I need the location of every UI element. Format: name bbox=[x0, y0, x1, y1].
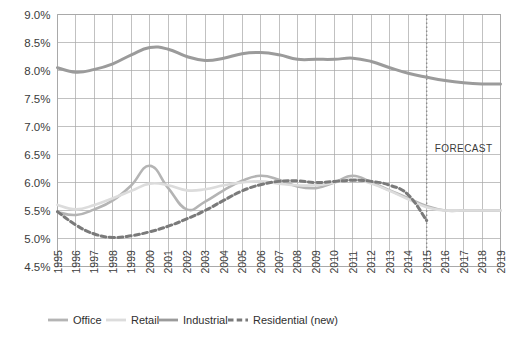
x-axis-tick-label: 2001 bbox=[162, 250, 174, 274]
x-axis-tick-label: 1999 bbox=[125, 250, 137, 274]
x-axis-tick-label: 1995 bbox=[52, 250, 64, 274]
legend-label-industrial[interactable]: Industrial bbox=[183, 314, 228, 326]
x-axis-tick-label: 2003 bbox=[199, 250, 211, 274]
x-axis-tick-label: 2012 bbox=[365, 250, 377, 274]
y-axis-tick-label: 7.0% bbox=[24, 121, 50, 133]
legend-label-retail[interactable]: Retail bbox=[131, 314, 159, 326]
y-axis-tick-label: 6.5% bbox=[24, 149, 50, 161]
grid-lines bbox=[58, 15, 501, 267]
x-axis-tick-label: 2004 bbox=[218, 250, 230, 274]
y-axis-tick-label: 8.0% bbox=[24, 65, 50, 77]
x-axis-labels: 1995199619971998199920002001200220032004… bbox=[52, 250, 507, 274]
forecast-annotation: FORECAST bbox=[435, 143, 493, 154]
chart-legend: OfficeRetailIndustrialResidential (new) bbox=[48, 314, 338, 326]
x-axis-tick-label: 2002 bbox=[181, 250, 193, 274]
x-axis-tick-label: 2011 bbox=[347, 251, 359, 274]
x-axis-tick-label: 2014 bbox=[402, 250, 414, 274]
x-axis-tick-label: 2018 bbox=[476, 250, 488, 274]
x-axis-tick-label: 2006 bbox=[255, 250, 267, 274]
legend-label-residential-new[interactable]: Residential (new) bbox=[253, 314, 338, 326]
x-axis-tick-label: 2007 bbox=[273, 250, 285, 274]
x-axis-tick-label: 1997 bbox=[88, 250, 100, 274]
x-axis-tick-label: 2015 bbox=[421, 250, 433, 274]
x-axis-tick-label: 2017 bbox=[458, 250, 470, 274]
x-axis-tick-label: 2016 bbox=[439, 250, 451, 274]
y-axis-tick-label: 5.5% bbox=[24, 205, 50, 217]
y-axis-tick-label: 6.0% bbox=[24, 177, 50, 189]
y-axis-tick-label: 4.5% bbox=[24, 261, 50, 273]
x-axis-tick-label: 2010 bbox=[328, 250, 340, 274]
x-axis-tick-label: 2019 bbox=[495, 250, 507, 274]
x-axis-tick-label: 2005 bbox=[236, 250, 248, 274]
x-axis-tick-label: 1996 bbox=[70, 250, 82, 274]
x-axis-tick-label: 2000 bbox=[144, 250, 156, 274]
x-axis-tick-label: 2008 bbox=[291, 250, 303, 274]
x-axis-tick-label: 2009 bbox=[310, 250, 322, 274]
y-axis-tick-label: 7.5% bbox=[24, 93, 50, 105]
y-axis-tick-label: 5.0% bbox=[24, 233, 50, 245]
x-axis-tick-label: 2013 bbox=[384, 250, 396, 274]
chart-container: 9.0%8.5%8.0%7.5%7.0%6.5%6.0%5.5%5.0%4.5%… bbox=[0, 0, 521, 342]
y-axis-tick-label: 8.5% bbox=[24, 37, 50, 49]
legend-label-office[interactable]: Office bbox=[73, 314, 102, 326]
y-axis-tick-label: 9.0% bbox=[24, 9, 50, 21]
line-chart: 9.0%8.5%8.0%7.5%7.0%6.5%6.0%5.5%5.0%4.5%… bbox=[0, 0, 521, 342]
x-axis-tick-label: 1998 bbox=[107, 250, 119, 274]
